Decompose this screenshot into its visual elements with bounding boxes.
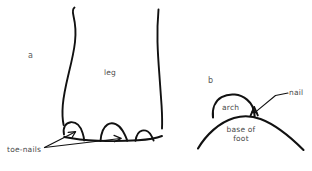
diagram-artwork xyxy=(0,0,312,171)
panel-b-label: b xyxy=(208,76,213,85)
nail-label: nail xyxy=(289,88,303,97)
leg-outline-left xyxy=(62,8,75,126)
toe-nails-label: toe-nails xyxy=(7,145,41,154)
base-of-foot-label-line1: base of xyxy=(216,125,266,134)
foot-sole-line xyxy=(64,136,162,141)
panel-a-label: a xyxy=(28,51,33,60)
leg-label: leg xyxy=(104,68,116,77)
nail-leader-line xyxy=(257,93,288,111)
figure-canvas: a leg toe-nails b arch nail base of foot xyxy=(0,0,312,171)
toe-bump-2 xyxy=(101,123,128,141)
leg-outline-right xyxy=(157,10,162,129)
base-of-foot-label-line2: foot xyxy=(216,134,266,143)
arch-label: arch xyxy=(222,103,239,112)
